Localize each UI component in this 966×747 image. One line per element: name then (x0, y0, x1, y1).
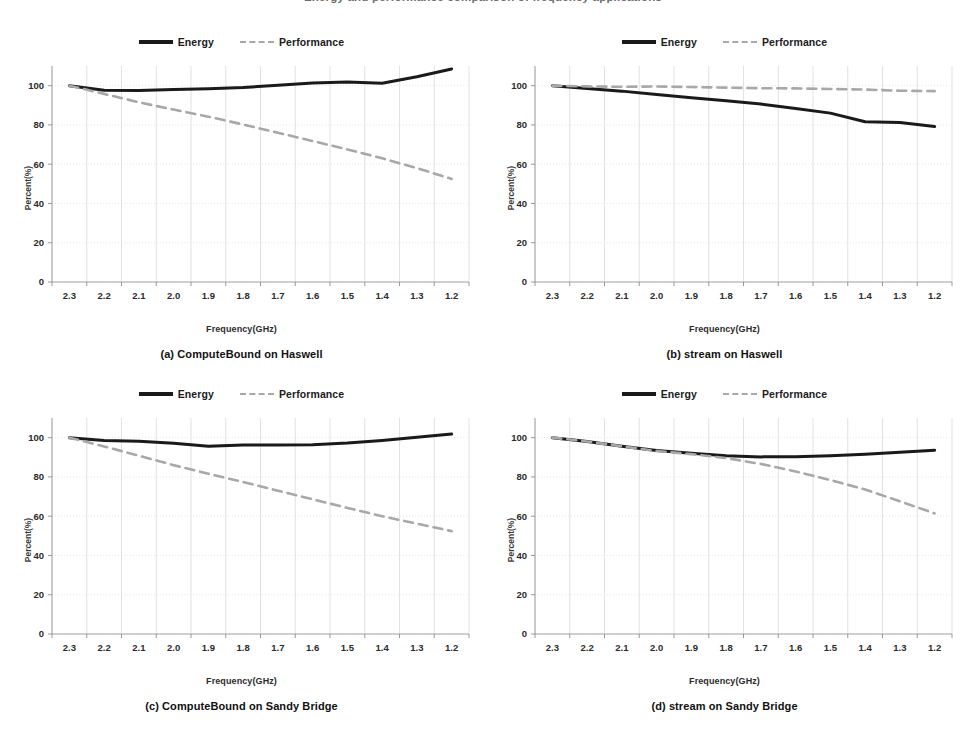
svg-text:1.4: 1.4 (859, 642, 873, 653)
legend-label-performance: Performance (762, 36, 827, 48)
svg-text:1.3: 1.3 (893, 642, 906, 653)
legend-item-performance: Performance (240, 388, 344, 400)
svg-text:1.6: 1.6 (306, 642, 319, 653)
svg-text:20: 20 (516, 237, 527, 248)
svg-text:1.8: 1.8 (237, 642, 250, 653)
svg-text:1.8: 1.8 (720, 290, 733, 301)
chart-panel-b: Energy Performance Percent(%) 0204060801… (483, 24, 966, 376)
plot-area-b: Percent(%) 0204060801002.32.22.12.01.91.… (483, 52, 966, 324)
svg-text:2.1: 2.1 (132, 642, 146, 653)
caption-b: (b) stream on Haswell (483, 348, 966, 360)
svg-text:1.3: 1.3 (893, 290, 906, 301)
performance-line-swatch-icon (240, 41, 274, 43)
svg-text:2.1: 2.1 (615, 642, 629, 653)
svg-text:1.9: 1.9 (202, 642, 215, 653)
svg-text:1.5: 1.5 (341, 290, 355, 301)
svg-text:1.2: 1.2 (928, 290, 941, 301)
legend-label-energy: Energy (661, 36, 697, 48)
svg-text:100: 100 (28, 80, 44, 91)
svg-text:60: 60 (33, 511, 44, 522)
caption-d: (d) stream on Sandy Bridge (483, 700, 966, 712)
svg-text:80: 80 (33, 471, 44, 482)
legend-item-energy: Energy (622, 36, 697, 48)
svg-text:1.8: 1.8 (237, 290, 250, 301)
svg-text:1.9: 1.9 (202, 290, 215, 301)
svg-text:1.7: 1.7 (271, 290, 284, 301)
plot-area-a: Percent(%) 0204060801002.32.22.12.01.91.… (0, 52, 483, 324)
svg-text:1.4: 1.4 (376, 290, 390, 301)
svg-text:1.5: 1.5 (824, 290, 838, 301)
svg-text:2.2: 2.2 (581, 290, 594, 301)
svg-text:1.3: 1.3 (410, 290, 423, 301)
x-axis-label-c: Frequency(GHz) (0, 676, 483, 686)
svg-text:80: 80 (516, 119, 527, 130)
svg-text:1.7: 1.7 (754, 290, 767, 301)
svg-text:1.6: 1.6 (306, 290, 319, 301)
svg-text:1.2: 1.2 (445, 642, 458, 653)
legend-label-performance: Performance (279, 36, 344, 48)
svg-text:20: 20 (33, 589, 44, 600)
svg-text:60: 60 (33, 159, 44, 170)
svg-text:40: 40 (516, 198, 527, 209)
legend-item-performance: Performance (723, 388, 827, 400)
svg-text:1.5: 1.5 (824, 642, 838, 653)
y-axis-label-b: Percent(%) (506, 166, 516, 210)
svg-text:0: 0 (522, 276, 527, 287)
y-axis-label-c: Percent(%) (23, 518, 33, 562)
y-axis-label-a: Percent(%) (23, 166, 33, 210)
legend-label-energy: Energy (178, 36, 214, 48)
plot-area-c: Percent(%) 0204060801002.32.22.12.01.91.… (0, 404, 483, 676)
legend-label-performance: Performance (762, 388, 827, 400)
svg-text:1.6: 1.6 (789, 290, 802, 301)
svg-text:1.4: 1.4 (859, 290, 873, 301)
svg-text:1.4: 1.4 (376, 642, 390, 653)
chart-svg-a: 0204060801002.32.22.12.01.91.81.71.61.51… (0, 52, 483, 324)
svg-text:2.2: 2.2 (581, 642, 594, 653)
chart-svg-b: 0204060801002.32.22.12.01.91.81.71.61.51… (483, 52, 966, 324)
chart-panel-a: Energy Performance Percent(%) 0204060801… (0, 24, 483, 376)
svg-text:1.9: 1.9 (685, 290, 698, 301)
svg-text:2.2: 2.2 (98, 290, 111, 301)
legend-label-energy: Energy (178, 388, 214, 400)
svg-text:40: 40 (516, 550, 527, 561)
svg-text:1.9: 1.9 (685, 642, 698, 653)
svg-text:80: 80 (516, 471, 527, 482)
chart-panel-d: Energy Performance Percent(%) 0204060801… (483, 376, 966, 747)
x-axis-label-a: Frequency(GHz) (0, 324, 483, 334)
svg-text:2.1: 2.1 (132, 290, 146, 301)
chart-svg-d: 0204060801002.32.22.12.01.91.81.71.61.51… (483, 404, 966, 676)
svg-text:100: 100 (28, 432, 44, 443)
svg-text:2.1: 2.1 (615, 290, 629, 301)
caption-a: (a) ComputeBound on Haswell (0, 348, 483, 360)
svg-text:2.0: 2.0 (167, 290, 180, 301)
svg-text:2.0: 2.0 (167, 642, 180, 653)
svg-text:2.3: 2.3 (63, 290, 76, 301)
svg-text:1.5: 1.5 (341, 642, 355, 653)
y-axis-label-d: Percent(%) (506, 518, 516, 562)
legend-label-performance: Performance (279, 388, 344, 400)
svg-text:1.7: 1.7 (271, 642, 284, 653)
svg-text:80: 80 (33, 119, 44, 130)
svg-text:1.2: 1.2 (928, 642, 941, 653)
chart-panel-c: Energy Performance Percent(%) 0204060801… (0, 376, 483, 747)
svg-text:0: 0 (39, 276, 44, 287)
svg-text:40: 40 (33, 198, 44, 209)
energy-line-swatch-icon (622, 40, 656, 44)
svg-text:2.0: 2.0 (650, 290, 663, 301)
svg-text:100: 100 (511, 432, 527, 443)
figure-title-text: Energy and performance comparison of fre… (0, 0, 966, 3)
legend-label-energy: Energy (661, 388, 697, 400)
legend-c: Energy Performance (0, 384, 483, 404)
performance-line-swatch-icon (240, 393, 274, 395)
performance-line-swatch-icon (723, 393, 757, 395)
svg-text:1.6: 1.6 (789, 642, 802, 653)
svg-text:1.7: 1.7 (754, 642, 767, 653)
legend-item-performance: Performance (240, 36, 344, 48)
energy-line-swatch-icon (139, 40, 173, 44)
svg-text:2.2: 2.2 (98, 642, 111, 653)
x-axis-label-b: Frequency(GHz) (483, 324, 966, 334)
plot-area-d: Percent(%) 0204060801002.32.22.12.01.91.… (483, 404, 966, 676)
energy-line-swatch-icon (139, 392, 173, 396)
svg-text:2.3: 2.3 (546, 290, 559, 301)
svg-text:0: 0 (39, 628, 44, 639)
